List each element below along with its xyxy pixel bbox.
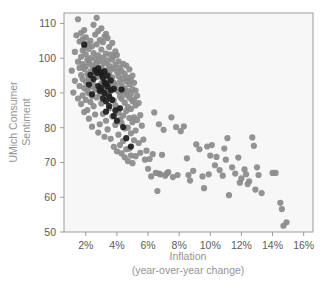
scatter-point — [90, 76, 96, 82]
scatter-point — [103, 109, 109, 115]
scatter-point — [72, 78, 78, 84]
scatter-point — [98, 46, 104, 52]
scatter-point — [98, 25, 104, 31]
scatter-point — [134, 93, 140, 99]
chart-canvas: 2%4%6%8%10%12%14%16% 5060708090100110 In… — [0, 0, 333, 288]
scatter-point — [94, 15, 100, 21]
scatter-point — [196, 146, 202, 152]
x-tick-label: 16% — [293, 239, 314, 251]
y-tick-label: 80 — [44, 122, 56, 134]
scatter-point — [181, 123, 187, 129]
scatter-point — [168, 114, 174, 120]
scatter-point — [232, 171, 238, 177]
scatter-point — [190, 168, 196, 174]
y-axis-ticks — [60, 23, 64, 232]
scatter-point — [137, 112, 143, 118]
scatter-point — [139, 123, 145, 129]
scatter-point — [184, 155, 190, 161]
scatter-point — [129, 72, 135, 78]
scatter-point — [259, 190, 265, 196]
scatter-point — [75, 16, 81, 22]
scatter-point — [283, 219, 289, 225]
scatter-point — [132, 87, 138, 93]
scatter-point — [207, 152, 213, 158]
y-tick-label: 50 — [44, 226, 56, 238]
scatter-point — [70, 90, 76, 96]
scatter-point — [131, 80, 137, 86]
scatter-point — [249, 134, 255, 140]
x-tick-label: 14% — [262, 239, 283, 251]
scatter-point — [273, 170, 279, 176]
scatter-point — [89, 124, 95, 130]
scatter-point — [161, 127, 167, 133]
scatter-point — [72, 49, 78, 55]
x-tick-label: 4% — [109, 239, 124, 251]
scatter-point — [114, 52, 120, 58]
scatter-point — [104, 35, 110, 41]
scatter-point — [115, 132, 121, 138]
scatter-point — [224, 135, 230, 141]
scatter-point — [123, 135, 129, 141]
y-tick-label: 70 — [44, 156, 56, 168]
scatter-point — [212, 162, 218, 168]
scatter-point — [129, 160, 135, 166]
scatter-point — [206, 171, 212, 177]
x-axis-title: Inflation — [170, 250, 207, 262]
scatter-point — [173, 124, 179, 130]
scatter-point — [95, 129, 101, 135]
scatter-point — [92, 111, 98, 117]
scatter-point — [126, 66, 132, 72]
scatter-point — [213, 154, 219, 160]
scatter-point — [243, 171, 249, 177]
scatter-point — [84, 107, 90, 113]
scatter-point — [223, 157, 229, 163]
scatter-point — [120, 124, 126, 130]
scatter-point — [90, 22, 96, 28]
y-tick-label: 100 — [38, 52, 56, 64]
scatter-point — [217, 167, 223, 173]
scatter-point — [220, 173, 226, 179]
y-axis-title-line-1: UMich Consumer — [7, 81, 19, 163]
scatter-point — [156, 171, 162, 177]
scatter-point — [97, 121, 103, 127]
scatter-point — [108, 77, 114, 83]
scatter-point — [252, 186, 258, 192]
scatter-point — [221, 145, 227, 151]
scatter-point — [87, 38, 93, 44]
scatter-point — [78, 101, 84, 107]
scatter-point — [109, 40, 115, 46]
scatter-point — [81, 42, 87, 48]
scatter-point — [226, 192, 232, 198]
scatter-point — [209, 142, 215, 148]
scatter-point — [69, 68, 75, 74]
x-tick-label: 6% — [140, 239, 155, 251]
scatter-point — [277, 200, 283, 206]
scatter-point — [86, 82, 92, 88]
scatter-point — [106, 103, 112, 109]
scatter-point — [136, 100, 142, 106]
scatter-point — [108, 136, 114, 142]
scatter-point — [154, 188, 160, 194]
scatter-point — [81, 27, 87, 33]
scatter-point — [117, 105, 123, 111]
scatter-point — [159, 152, 165, 158]
scatter-point — [246, 178, 252, 184]
x-tick-label: 2% — [78, 239, 93, 251]
scatter-point — [143, 148, 149, 154]
scatter-point — [145, 166, 151, 172]
scatter-point — [255, 172, 261, 178]
scatter-point — [137, 150, 143, 156]
y-tick-label: 110 — [39, 17, 56, 29]
scatter-point — [140, 136, 146, 142]
scatter-point — [111, 113, 117, 119]
scatter-point — [104, 126, 110, 132]
scatter-point — [103, 118, 109, 124]
scatter-point — [279, 206, 285, 212]
y-axis-tick-labels: 5060708090100110 — [38, 17, 56, 238]
scatter-point — [109, 97, 115, 103]
scatter-point — [185, 172, 191, 178]
scatter-point — [90, 103, 96, 109]
y-tick-label: 60 — [44, 191, 56, 203]
scatter-chart-figure: 2%4%6%8%10%12%14%16% 5060708090100110 In… — [0, 0, 333, 288]
scatter-point — [128, 143, 134, 149]
